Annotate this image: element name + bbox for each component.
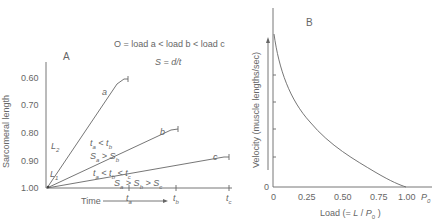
xtick-050: 0.50	[334, 193, 352, 202]
force-velocity-curve	[274, 34, 406, 187]
annotation-ta-lt-tb: ta < tb	[90, 139, 112, 150]
annotation-sa-gt-sb-gt-sc: Sa > Sb > Sc	[114, 179, 162, 190]
panel-b-label: B	[306, 18, 313, 28]
ytick-090: 0.90	[21, 157, 39, 166]
figure: A O = load a < load b < load c S = d/t 0…	[0, 0, 438, 223]
ytick-100: 1.00	[21, 184, 39, 193]
panel-a-ylabel: Sarcomeral length	[2, 95, 11, 168]
ytick-060: 0.60	[21, 74, 39, 83]
line-c-label: c	[213, 153, 218, 162]
line-a-label: a	[102, 88, 107, 97]
panel-b	[266, 8, 432, 187]
annotation-sa-gt-sb: Sa > Sb	[90, 152, 119, 163]
line-b-label: b	[160, 128, 165, 137]
panel-b-ylabel: Velocity (muscle lengths/sec)	[252, 52, 261, 168]
xtick-ta: ta	[126, 194, 132, 205]
xtick-075: 0.75	[370, 193, 388, 202]
l1-label: L1	[50, 170, 58, 181]
ytick-080: 0.80	[21, 129, 39, 138]
xtick-025: 0.25	[298, 193, 316, 202]
xtick-tb: tb	[173, 194, 179, 205]
origin-dot	[47, 186, 50, 189]
figure-svg	[0, 0, 438, 223]
ytick-070: 0.70	[21, 101, 39, 110]
xtick-tc: tc	[226, 194, 232, 205]
panel-a-label: A	[63, 52, 70, 62]
xtick-p0: P0	[421, 193, 430, 204]
load-order-legend: O = load a < load b < load c	[114, 40, 225, 49]
speed-formula: S = d/t	[155, 58, 181, 67]
panel-a-xlabel: Time	[81, 197, 101, 206]
panel-b-y-zero: 0	[264, 183, 269, 192]
xtick-100: 1.00	[398, 193, 416, 202]
time-arrow-head	[163, 199, 168, 203]
velocity-arrow-head	[266, 37, 270, 43]
xtick-0: 0	[271, 193, 276, 202]
l2-label: L2	[51, 142, 59, 153]
panel-b-xlabel: Load (= L / P0 )	[320, 209, 381, 220]
